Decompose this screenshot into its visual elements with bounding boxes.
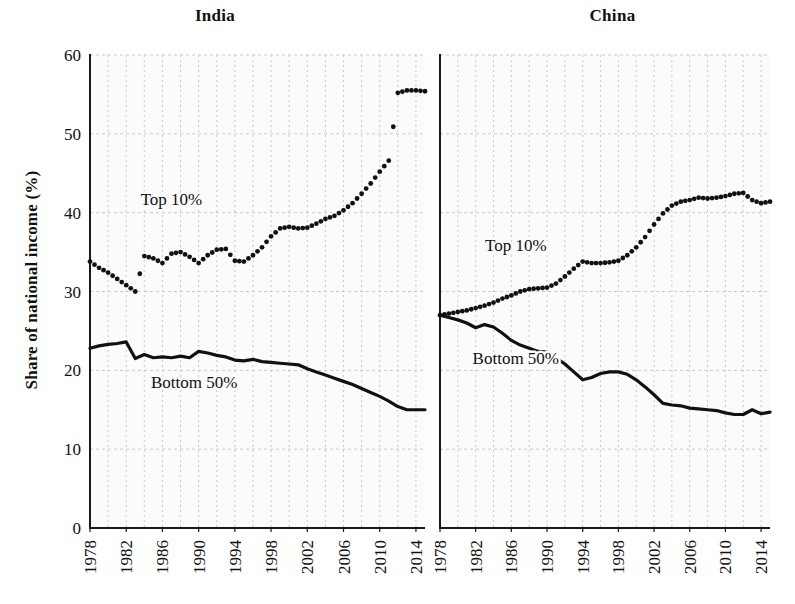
series-dot-top10 (355, 196, 360, 201)
series-dot-top10 (142, 254, 147, 259)
series-dot-top10 (386, 158, 391, 163)
series-dot-top10 (719, 195, 724, 200)
series-dot-top10 (97, 265, 102, 270)
series-dot-top10 (314, 221, 319, 226)
series-dot-top10 (305, 225, 310, 230)
y-tick-label: 50 (64, 125, 81, 144)
x-tick-label: 1986 (153, 540, 172, 574)
series-dot-top10 (183, 252, 188, 257)
x-tick-label: 1986 (502, 540, 521, 574)
series-dot-top10 (346, 204, 351, 209)
series-dot-top10 (228, 252, 233, 257)
x-tick-label: 1994 (574, 540, 593, 575)
series-dot-top10 (745, 194, 750, 199)
series-dot-top10 (391, 124, 396, 129)
x-tick-label: 2010 (716, 540, 735, 574)
series-dot-top10 (101, 268, 106, 273)
series-dot-top10 (237, 259, 242, 264)
series-dot-top10 (359, 191, 364, 196)
series-dot-top10 (404, 88, 409, 93)
series-dot-top10 (210, 250, 215, 255)
series-dot-top10 (169, 251, 174, 256)
series-dot-top10 (638, 240, 643, 245)
series-dot-top10 (337, 211, 342, 216)
x-tick-label: 2014 (407, 540, 426, 575)
x-tick-label: 2014 (752, 540, 771, 575)
series-dot-top10 (124, 283, 129, 288)
series-dot-top10 (178, 250, 183, 255)
series-dot-top10 (110, 273, 115, 278)
series-dot-top10 (128, 286, 133, 291)
series-dot-top10 (594, 261, 599, 266)
series-dot-top10 (669, 203, 674, 208)
series-dot-top10 (665, 207, 670, 212)
series-dot-top10 (754, 199, 759, 204)
series-dot-top10 (692, 196, 697, 201)
series-dot-top10 (527, 287, 532, 292)
series-dot-top10 (364, 186, 369, 191)
x-tick-label: 1978 (81, 540, 100, 574)
series-dot-top10 (612, 259, 617, 264)
x-tick-label: 2010 (371, 540, 390, 574)
series-dot-top10 (473, 306, 478, 311)
series-dot-top10 (395, 90, 400, 95)
series-dot-top10 (418, 88, 423, 93)
panel-china: China 1978198219861990199419982002200620… (430, 0, 795, 604)
series-dot-top10 (255, 249, 260, 254)
series-dot-top10 (656, 217, 661, 222)
series-dot-top10 (723, 194, 728, 199)
series-dot-top10 (469, 307, 474, 312)
series-dot-top10 (447, 311, 452, 316)
series-dot-top10 (598, 261, 603, 266)
series-dot-top10 (763, 200, 768, 205)
series-dot-top10 (192, 258, 197, 263)
series-dot-top10 (678, 199, 683, 204)
series-dot-top10 (607, 260, 612, 265)
x-tick-label: 2002 (645, 540, 664, 574)
y-tick-label: 20 (64, 361, 81, 380)
series-dot-top10 (460, 309, 465, 314)
series-dot-top10 (269, 234, 274, 239)
x-tick-label: 2002 (298, 540, 317, 574)
x-tick-label: 1998 (609, 540, 628, 574)
series-dot-top10 (629, 249, 634, 254)
series-dot-top10 (714, 195, 719, 200)
series-dot-top10 (545, 285, 550, 290)
series-dot-top10 (549, 283, 554, 288)
series-dot-top10 (282, 225, 287, 230)
series-dot-top10 (616, 258, 621, 263)
series-dot-top10 (562, 274, 567, 279)
series-dot-top10 (705, 196, 710, 201)
series-dot-top10 (567, 270, 572, 275)
series-dot-top10 (137, 271, 142, 276)
series-dot-top10 (531, 286, 536, 291)
x-tick-label: 2006 (335, 540, 354, 574)
series-dot-top10 (487, 302, 492, 307)
series-dot-top10 (478, 304, 483, 309)
series-dot-top10 (165, 256, 170, 261)
chart-svg-india: 0102030405060197819821986199019941998200… (0, 0, 430, 604)
y-tick-label: 10 (64, 440, 81, 459)
series-annotation: Top 10% (141, 190, 203, 209)
series-dot-top10 (620, 256, 625, 261)
x-tick-label: 1998 (262, 540, 281, 574)
series-dot-top10 (309, 223, 314, 228)
series-dot-top10 (251, 253, 256, 258)
series-dot-top10 (759, 201, 764, 206)
series-dot-top10 (500, 296, 505, 301)
series-dot-top10 (580, 259, 585, 264)
series-dot-top10 (451, 310, 456, 315)
series-dot-top10 (687, 198, 692, 203)
series-dot-top10 (741, 191, 746, 196)
series-dot-top10 (652, 222, 657, 227)
series-dot-top10 (151, 256, 156, 261)
series-dot-top10 (278, 226, 283, 231)
series-dot-top10 (232, 258, 237, 263)
y-tick-label: 40 (64, 204, 81, 223)
series-dot-top10 (146, 255, 151, 260)
panel-title-china: China (430, 6, 795, 26)
series-dot-top10 (273, 230, 278, 235)
x-tick-label: 1990 (190, 540, 209, 574)
series-dot-top10 (496, 298, 501, 303)
y-tick-label: 0 (73, 519, 82, 538)
